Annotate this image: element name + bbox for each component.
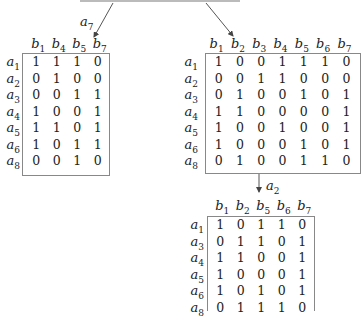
- row-label: a3: [178, 87, 198, 104]
- row-label: a3: [184, 234, 204, 251]
- matrix-cell: 0: [26, 71, 47, 88]
- matrix-cell: 1: [229, 153, 250, 170]
- matrix-cell: 1: [336, 120, 357, 137]
- matrix-row: 0011000: [208, 71, 357, 88]
- matrix-cell: 0: [251, 104, 272, 121]
- matrix-cell: 0: [47, 153, 68, 170]
- matrix-cell: 0: [292, 217, 313, 234]
- matrix-cell: 1: [293, 153, 314, 170]
- row-label: a6: [178, 137, 198, 154]
- row-label: a6: [184, 283, 204, 300]
- matrix-cell: 0: [67, 120, 88, 137]
- matrix-cell: 1: [88, 137, 109, 154]
- matrix-cell: 0: [229, 137, 250, 154]
- matrix-cell: 1: [231, 250, 252, 267]
- matrix-cell: 1: [292, 250, 313, 267]
- matrix-cell: 1: [88, 120, 109, 137]
- matrix-row: 0010: [26, 153, 108, 170]
- arrow-right: [206, 3, 233, 36]
- matrix-cell: 1: [208, 120, 229, 137]
- matrix-row: 01110: [210, 300, 313, 317]
- matrix-cell: 1: [292, 234, 313, 251]
- matrix-cell: 1: [251, 300, 272, 317]
- matrix-cell: 1: [88, 87, 109, 104]
- left-matrix-values: 1110010000111001110110110010: [26, 54, 108, 170]
- row-label: a8: [184, 300, 204, 317]
- matrix-cell: 1: [251, 234, 272, 251]
- matrix-cell: 0: [272, 104, 293, 121]
- matrix-row: 1100001: [208, 104, 357, 121]
- matrix-cell: 0: [314, 104, 335, 121]
- column-header: b7: [294, 198, 315, 216]
- matrix-cell: 1: [336, 104, 357, 121]
- matrix-cell: 1: [314, 153, 335, 170]
- row-label: a1: [0, 54, 20, 71]
- matrix-cell: 0: [208, 153, 229, 170]
- bottom-matrix-header: b1b2b5b6b7: [212, 198, 315, 216]
- column-header: b1: [206, 36, 227, 54]
- matrix-row: 1011: [26, 137, 108, 154]
- matrix-cell: 0: [208, 71, 229, 88]
- matrix-row: 0011: [26, 87, 108, 104]
- matrix-cell: 0: [272, 234, 293, 251]
- matrix-cell: 1: [292, 283, 313, 300]
- matrix-cell: 0: [231, 283, 252, 300]
- matrix-cell: 0: [210, 234, 231, 251]
- matrix-cell: 0: [88, 54, 109, 71]
- column-header: b2: [227, 36, 248, 54]
- bottom-matrix-values: 101100110111001100011010101110: [210, 217, 313, 316]
- matrix-row: 1001001: [208, 120, 357, 137]
- right-matrix-values: 1001110001100001001011100001100100110001…: [208, 54, 357, 170]
- matrix-cell: 0: [26, 87, 47, 104]
- matrix-cell: 0: [47, 104, 68, 121]
- matrix-cell: 1: [272, 300, 293, 317]
- matrix-cell: 1: [229, 104, 250, 121]
- row-label: a4: [178, 104, 198, 121]
- matrix-row: 0100: [26, 71, 108, 88]
- matrix-cell: 0: [251, 137, 272, 154]
- matrix-cell: 1: [251, 217, 272, 234]
- matrix-cell: 1: [272, 217, 293, 234]
- matrix-cell: 0: [251, 153, 272, 170]
- matrix-cell: 0: [229, 54, 250, 71]
- matrix-cell: 0: [88, 153, 109, 170]
- column-header: b3: [249, 36, 270, 54]
- matrix-cell: 1: [26, 120, 47, 137]
- matrix-cell: 1: [272, 71, 293, 88]
- matrix-cell: 1: [231, 234, 252, 251]
- matrix-cell: 0: [272, 250, 293, 267]
- column-header: b2: [233, 198, 254, 216]
- column-header: b7: [334, 36, 355, 54]
- matrix-cell: 1: [208, 104, 229, 121]
- matrix-cell: 1: [26, 137, 47, 154]
- matrix-cell: 1: [210, 217, 231, 234]
- matrix-row: 10110: [210, 217, 313, 234]
- column-header: b1: [28, 36, 49, 54]
- matrix-cell: 0: [67, 71, 88, 88]
- matrix-row: 1001: [26, 104, 108, 121]
- row-label: a2: [178, 71, 198, 88]
- matrix-cell: 0: [292, 300, 313, 317]
- edge-label-a2: a2: [266, 178, 280, 196]
- matrix-cell: 0: [26, 153, 47, 170]
- matrix-cell: 1: [67, 137, 88, 154]
- matrix-cell: 1: [208, 137, 229, 154]
- column-header: b7: [90, 36, 111, 54]
- matrix-cell: 0: [314, 137, 335, 154]
- matrix-cell: 1: [26, 54, 47, 71]
- row-label: a8: [178, 153, 198, 170]
- matrix-cell: 0: [251, 250, 272, 267]
- matrix-cell: 0: [272, 137, 293, 154]
- matrix-cell: 0: [293, 104, 314, 121]
- matrix-cell: 0: [336, 71, 357, 88]
- matrix-cell: 0: [231, 267, 252, 284]
- matrix-cell: 1: [67, 54, 88, 71]
- matrix-row: 01101: [210, 234, 313, 251]
- matrix-cell: 0: [314, 87, 335, 104]
- row-label: a4: [184, 250, 204, 267]
- matrix-cell: 1: [47, 71, 68, 88]
- matrix-cell: 0: [251, 54, 272, 71]
- bottom-matrix-row-labels: a1a3a4a5a6a8: [184, 217, 204, 316]
- row-label: a1: [178, 54, 198, 71]
- column-header: b5: [69, 36, 90, 54]
